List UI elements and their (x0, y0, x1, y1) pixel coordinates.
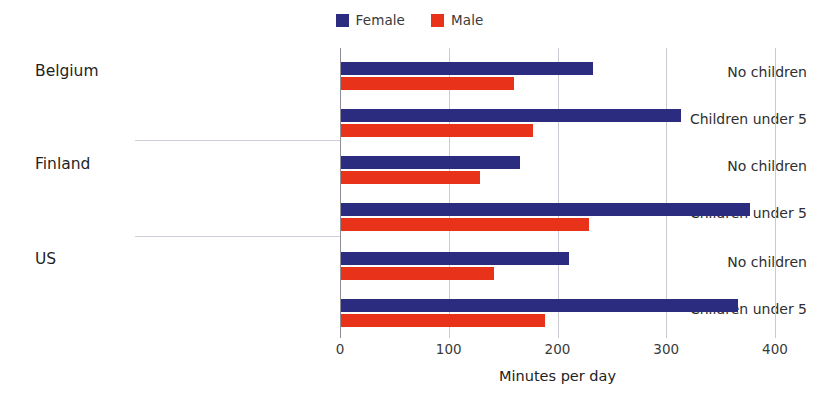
bar-female-belgium-children-under-5 (341, 109, 681, 122)
bar-male-us-no-children (341, 267, 494, 280)
bar-male-belgium-no-children (341, 77, 514, 90)
bar-female-us-no-children (341, 252, 569, 265)
bar-chart: Female Male Belgium Finland US No childr… (0, 0, 819, 415)
bar-female-belgium-no-children (341, 62, 593, 75)
y-axis-line (340, 48, 341, 338)
legend-item-male[interactable]: Male (431, 12, 483, 28)
gridline-100 (449, 48, 450, 338)
group-label-us: US (35, 250, 56, 268)
group-separator-2 (135, 236, 340, 237)
legend-swatch-male (431, 14, 444, 27)
gridline-200 (558, 48, 559, 338)
legend-item-female[interactable]: Female (336, 12, 405, 28)
bar-male-us-children-under-5 (341, 314, 545, 327)
chart-legend: Female Male (0, 12, 819, 28)
xtick-200: 200 (545, 341, 571, 357)
group-label-belgium: Belgium (35, 62, 99, 80)
group-separator-1 (135, 140, 340, 141)
legend-swatch-female (336, 14, 349, 27)
xtick-300: 300 (653, 341, 679, 357)
bar-male-finland-children-under-5 (341, 218, 589, 231)
x-axis-title: Minutes per day (340, 368, 775, 384)
bar-male-belgium-children-under-5 (341, 124, 533, 137)
bar-male-finland-no-children (341, 171, 480, 184)
gridline-400 (775, 48, 776, 338)
bar-female-finland-children-under-5 (341, 203, 750, 216)
xtick-400: 400 (762, 341, 788, 357)
plot-area (340, 48, 775, 338)
legend-label-male: Male (451, 12, 483, 28)
bar-female-finland-no-children (341, 156, 520, 169)
xtick-0: 0 (336, 341, 345, 357)
legend-label-female: Female (356, 12, 405, 28)
bar-female-us-children-under-5 (341, 299, 738, 312)
gridline-300 (666, 48, 667, 338)
group-label-finland: Finland (35, 155, 90, 173)
xtick-100: 100 (436, 341, 462, 357)
